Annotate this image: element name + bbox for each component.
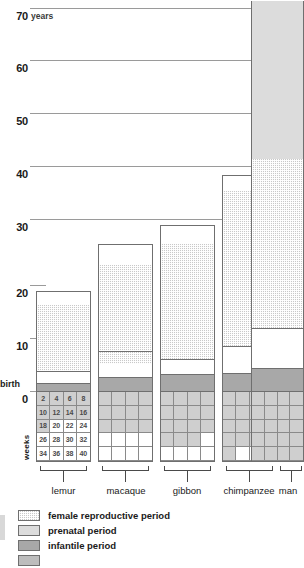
weeks-cell <box>201 406 214 420</box>
species-label-man: man <box>272 485 304 496</box>
stem-gibbon <box>187 471 188 482</box>
bar-gibbon-seg-infantile <box>161 374 214 391</box>
weeks-cell <box>223 420 236 434</box>
weeks-cell <box>126 406 139 420</box>
weeks-cell <box>252 433 265 447</box>
weeks-cell <box>252 406 265 420</box>
weeks-cell <box>290 406 303 420</box>
weeks-cell <box>174 406 187 420</box>
weeks-cell <box>278 433 291 447</box>
weeks-cell <box>188 392 201 406</box>
weeks-cell <box>112 392 125 406</box>
weeks-cell <box>278 406 291 420</box>
weeks-cell <box>126 447 139 461</box>
weeks-cell <box>236 447 249 461</box>
weeks-cell <box>290 392 303 406</box>
weeks-cell <box>139 406 152 420</box>
weeks-cell <box>139 447 152 461</box>
legend-item-reproductive: female reproductive period <box>18 508 298 523</box>
weeks-cell <box>252 392 265 406</box>
weeks-cell: 4 <box>50 392 63 406</box>
weeks-cell <box>278 420 291 434</box>
weeks-cell <box>290 447 303 461</box>
ytick-label-60: 60 <box>2 62 28 74</box>
weeks-cell <box>161 420 174 434</box>
weeks-cell <box>139 433 152 447</box>
legend-item-prenatal: prenatal period <box>18 523 298 538</box>
bar-macaque-seg-infantile <box>99 377 152 391</box>
weeks-cell <box>112 420 125 434</box>
weeks-grid-lemur: 246810121416182022242628303234363840 <box>36 392 91 462</box>
legend-item-fourth <box>18 553 298 568</box>
weeks-cell: 2 <box>37 392 50 406</box>
legend-label-infantile: infantile period <box>48 540 116 551</box>
weeks-cell <box>99 447 112 461</box>
weeks-cell <box>126 420 139 434</box>
weeks-cell <box>278 447 291 461</box>
legend-swatch-fourth-icon <box>18 555 40 566</box>
bar-macaque[interactable] <box>98 244 153 392</box>
bar-gibbon-seg-reproductive <box>161 244 214 360</box>
legend-label-prenatal: prenatal period <box>48 525 117 536</box>
weeks-cell <box>112 447 125 461</box>
weeks-cell <box>290 420 303 434</box>
bar-macaque-seg-reproductive <box>99 265 152 352</box>
weeks-cell <box>265 447 278 461</box>
weeks-cell <box>236 420 249 434</box>
bar-lemur-seg-infantile <box>37 383 90 391</box>
bar-man-seg-juvenile <box>252 329 303 369</box>
weeks-cell <box>174 433 187 447</box>
bar-lemur[interactable] <box>36 291 91 392</box>
weeks-cell <box>161 406 174 420</box>
weeks-cell <box>139 392 152 406</box>
bar-gibbon[interactable] <box>160 225 215 392</box>
weeks-grid-gibbon <box>160 392 215 462</box>
weeks-cell <box>201 392 214 406</box>
bar-man-seg-infantile <box>252 368 303 391</box>
legend-label-reproductive: female reproductive period <box>48 510 170 521</box>
bar-macaque-seg-juvenile-lower <box>99 364 152 378</box>
species-label-gibbon: gibbon <box>158 485 216 496</box>
weeks-cell <box>201 433 214 447</box>
stem-lemur <box>63 471 64 482</box>
weeks-cell: 6 <box>64 392 77 406</box>
weeks-cell: 12 <box>50 406 63 420</box>
weeks-cell: 30 <box>64 433 77 447</box>
bar-lemur-seg-juvenile <box>37 292 90 305</box>
birth-axis-label: birth <box>0 379 20 389</box>
weeks-cell <box>112 433 125 447</box>
weeks-cell <box>201 447 214 461</box>
bar-gibbon-seg-juvenile <box>161 226 214 244</box>
chart-plot-area: 70 60 50 40 30 20 10 0 years birth <box>0 0 304 474</box>
weeks-cell: 22 <box>64 420 77 434</box>
bar-man[interactable] <box>251 1 304 392</box>
weeks-cell <box>236 406 249 420</box>
weeks-cell <box>99 433 112 447</box>
legend-swatch-reproductive-icon <box>18 510 40 521</box>
ytick-label-10: 10 <box>2 340 28 352</box>
weeks-cell <box>188 447 201 461</box>
weeks-cell: 34 <box>37 447 50 461</box>
species-label-macaque: macaque <box>96 485 156 496</box>
weeks-cell <box>174 420 187 434</box>
weeks-cell: 10 <box>37 406 50 420</box>
weeks-cell <box>252 420 265 434</box>
weeks-cell <box>236 433 249 447</box>
ytick-label-20: 20 <box>2 287 28 299</box>
ytick-label-50: 50 <box>2 115 28 127</box>
stem-macaque <box>125 471 126 482</box>
weeks-axis-label: weeks <box>22 418 31 460</box>
weeks-cell <box>161 433 174 447</box>
legend-swatch-infantile-icon <box>18 540 40 551</box>
weeks-grid-macaque <box>98 392 153 462</box>
ytick-label-40: 40 <box>2 168 28 180</box>
weeks-grid-man <box>251 392 304 462</box>
bar-lemur-seg-reproductive <box>37 305 90 372</box>
weeks-cell <box>265 406 278 420</box>
weeks-cell <box>161 392 174 406</box>
bar-macaque-seg-juvenile <box>99 245 152 265</box>
weeks-cell <box>265 392 278 406</box>
weeks-cell <box>265 420 278 434</box>
legend-item-infantile: infantile period <box>18 538 298 553</box>
weeks-cell <box>223 392 236 406</box>
